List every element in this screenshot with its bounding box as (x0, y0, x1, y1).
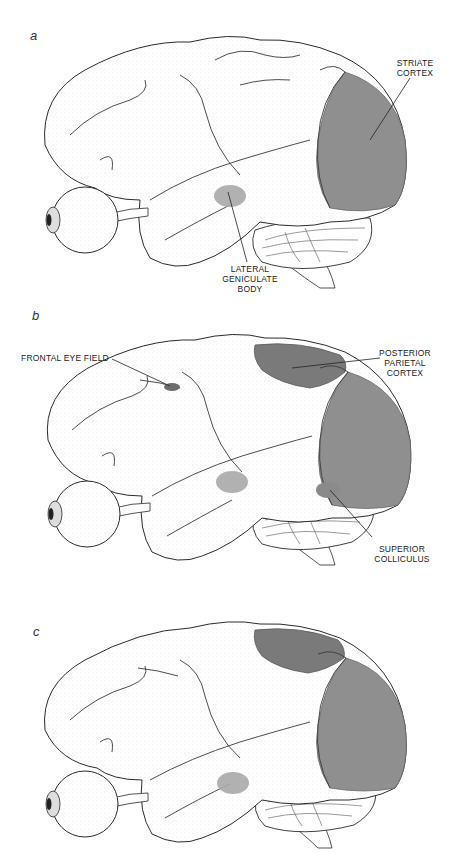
label-lateral-geniculate-body: LATERAL GENICULATE BODY (215, 264, 285, 294)
lateral-geniculate-region-c (217, 772, 249, 794)
lateral-geniculate-region-a (214, 185, 246, 207)
superior-colliculus-region (316, 482, 340, 498)
brain-illustration-c (0, 580, 449, 853)
panel-c: c (0, 580, 449, 853)
label-striate-cortex: STRIATE CORTEX (385, 58, 445, 78)
panel-b: b FRONTAL EYE FIELD POSTERIOR PARIETAL C… (0, 300, 449, 570)
label-superior-colliculus: SUPERIOR COLLICULUS (372, 544, 432, 564)
eye-c (46, 771, 148, 837)
brain-illustration-b (0, 300, 449, 570)
lateral-geniculate-region-b (216, 471, 248, 493)
panel-letter-a: a (30, 28, 37, 43)
brain-illustration-a (0, 0, 449, 290)
panel-letter-b: b (32, 308, 39, 323)
label-posterior-parietal-cortex: POSTERIOR PARIETAL CORTEX (375, 348, 435, 378)
label-frontal-eye-field: FRONTAL EYE FIELD (21, 353, 109, 363)
panel-letter-c: c (33, 624, 40, 639)
panel-a: a STRIATE CORTEX LATERAL GENICULATE BODY (0, 0, 449, 290)
